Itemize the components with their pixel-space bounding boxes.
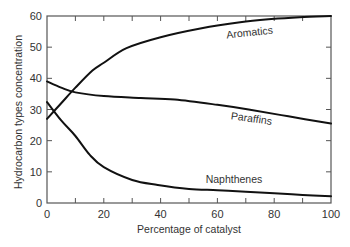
y-tick-label: 40: [30, 72, 42, 84]
x-tick-labels: 020406080100: [44, 208, 340, 220]
y-tick-label: 20: [30, 135, 42, 147]
y-tick-label: 0: [36, 197, 42, 209]
y-axis-title: Hydrocarbon types concentration: [12, 35, 24, 189]
x-tick-label: 100: [322, 208, 340, 220]
series-lines: [47, 16, 331, 196]
series-label-naphthenes: Naphthenes: [206, 173, 263, 185]
y-tick-label: 10: [30, 166, 42, 178]
axis-ticks: [47, 16, 331, 203]
y-tick-label: 30: [30, 104, 42, 116]
y-tick-labels: 0102030405060: [30, 10, 42, 209]
series-line-aromatics: [47, 16, 331, 119]
x-axis-title: Percentage of catalyst: [137, 223, 241, 235]
x-tick-label: 40: [154, 208, 166, 220]
series-label-aromatics: Aromatics: [226, 24, 274, 41]
x-tick-label: 0: [44, 208, 50, 220]
x-tick-label: 60: [211, 208, 223, 220]
series-line-paraffins: [47, 81, 331, 123]
y-tick-label: 50: [30, 41, 42, 53]
x-tick-label: 20: [98, 208, 110, 220]
y-tick-label: 60: [30, 10, 42, 22]
x-tick-label: 80: [268, 208, 280, 220]
plot-border: [47, 16, 331, 203]
plot-frame: [47, 16, 331, 203]
line-chart: 0102030405060 020406080100 AromaticsPara…: [0, 0, 350, 247]
